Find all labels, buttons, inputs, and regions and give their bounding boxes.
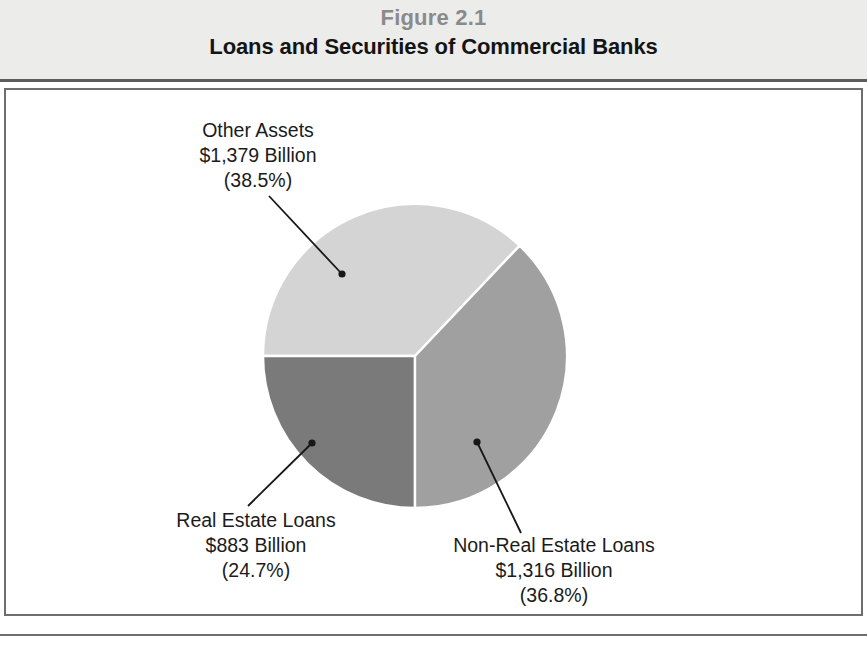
slice-label-real-estate-loans: Real Estate Loans $883 Billion (24.7%) [122, 508, 390, 583]
slice-label-name: Other Assets [136, 118, 380, 143]
footer-divider [0, 634, 867, 636]
slice-label-name: Non-Real Estate Loans [404, 533, 704, 558]
slice-label-percent: (24.7%) [122, 558, 390, 583]
slice-label-value: $883 Billion [122, 533, 390, 558]
slice-label-value: $1,379 Billion [136, 143, 380, 168]
slice-label-percent: (36.8%) [404, 583, 704, 608]
figure-page: Figure 2.1 Loans and Securities of Comme… [0, 0, 867, 657]
slice-label-value: $1,316 Billion [404, 558, 704, 583]
slice-label-name: Real Estate Loans [122, 508, 390, 533]
slice-label-non-real-estate-loans: Non-Real Estate Loans $1,316 Billion (36… [404, 533, 704, 608]
figure-number: Figure 2.1 [0, 5, 867, 31]
figure-title-banner: Figure 2.1 Loans and Securities of Comme… [0, 0, 867, 82]
slice-label-percent: (38.5%) [136, 168, 380, 193]
page-title: Loans and Securities of Commercial Banks [0, 34, 867, 60]
slice-label-other-assets: Other Assets $1,379 Billion (38.5%) [136, 118, 380, 193]
